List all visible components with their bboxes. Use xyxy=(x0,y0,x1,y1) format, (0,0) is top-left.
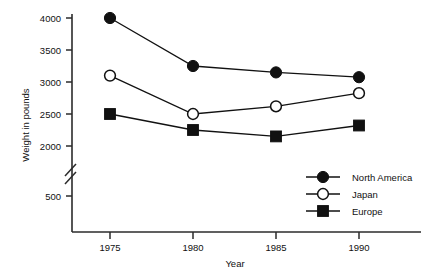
series-north-america xyxy=(104,12,364,82)
data-point-north-america-1990 xyxy=(353,72,364,83)
legend-item-europe[interactable]: Europe xyxy=(306,206,383,217)
data-point-japan-1985 xyxy=(271,101,282,112)
y-tick-label: 4000 xyxy=(40,13,61,24)
x-tick-label: 1985 xyxy=(265,242,286,253)
data-point-japan-1975 xyxy=(105,70,116,81)
data-point-europe-1990 xyxy=(354,120,365,131)
x-tick-marks xyxy=(110,232,359,239)
y-tick-label: 3000 xyxy=(40,77,61,88)
data-point-europe-1980 xyxy=(188,125,199,136)
y-tick-label: 2500 xyxy=(40,109,61,120)
legend-label-europe: Europe xyxy=(352,206,383,217)
y-tick-label: 500 xyxy=(45,191,61,202)
legend-item-north-america[interactable]: North America xyxy=(306,171,413,182)
series-europe xyxy=(105,109,365,142)
series-line-japan xyxy=(110,76,359,114)
line-chart: 4000 3500 3000 2500 2000 500 Weight in p… xyxy=(0,0,446,277)
y-axis-break-icon xyxy=(65,164,76,184)
x-tick-label: 1990 xyxy=(348,242,369,253)
data-point-north-america-1975 xyxy=(104,12,115,23)
chart-legend: North America Japan Europe xyxy=(306,171,413,216)
series-japan xyxy=(105,70,365,119)
legend-label-japan: Japan xyxy=(352,189,378,200)
data-point-japan-1980 xyxy=(188,109,199,120)
x-tick-label: 1980 xyxy=(182,242,203,253)
filled-circle-icon xyxy=(317,171,328,182)
series-line-europe xyxy=(110,114,359,136)
open-circle-icon xyxy=(318,189,329,200)
data-point-europe-1975 xyxy=(105,109,116,120)
data-point-north-america-1980 xyxy=(187,60,198,71)
y-tick-label: 3500 xyxy=(40,45,61,56)
x-tick-label: 1975 xyxy=(99,242,120,253)
legend-item-japan[interactable]: Japan xyxy=(306,189,378,200)
y-axis-title: Weight in pounds xyxy=(20,88,31,161)
series-line-north-america xyxy=(110,18,359,77)
chart-canvas: 4000 3500 3000 2500 2000 500 Weight in p… xyxy=(0,0,446,277)
data-point-japan-1990 xyxy=(354,88,365,99)
filled-square-icon xyxy=(318,206,329,217)
x-axis-title: Year xyxy=(225,258,244,269)
y-tick-label: 2000 xyxy=(40,141,61,152)
data-point-europe-1985 xyxy=(271,131,282,142)
data-point-north-america-1985 xyxy=(270,67,281,78)
legend-label-north-america: North America xyxy=(352,172,413,183)
